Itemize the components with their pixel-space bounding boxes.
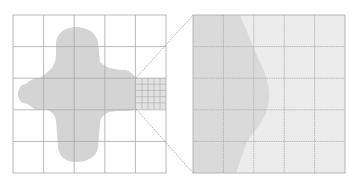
- diagram-canvas: [0, 0, 357, 180]
- zoom-panel: [193, 15, 345, 173]
- highlighted-cell-subgrid: [136, 78, 166, 109]
- left-panel: [13, 15, 166, 173]
